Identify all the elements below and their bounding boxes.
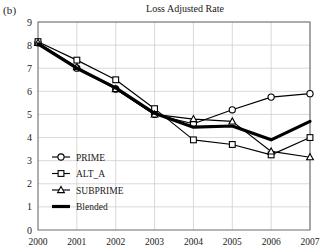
data-series — [35, 39, 314, 160]
data-point — [307, 135, 313, 141]
data-point — [229, 142, 235, 148]
y-tick-label: 6 — [27, 86, 32, 97]
y-tick-label: 4 — [27, 132, 32, 143]
data-point — [268, 94, 274, 100]
legend-label: Blended — [76, 202, 108, 212]
legend-item-alt-a[interactable]: ALT_A — [52, 169, 105, 179]
data-point — [191, 137, 197, 143]
chart-legend: PRIMEALT_ASUBPRIMEBlended — [52, 153, 124, 213]
legend-label: ALT_A — [76, 169, 105, 179]
legend-marker-square — [58, 171, 64, 177]
figure-panel: (b) Loss Adjusted Rate 0123456789 200020… — [0, 0, 324, 250]
x-axis-ticks: 20002001200220032004200520062007 — [29, 237, 320, 247]
legend-item-blended[interactable]: Blended — [52, 202, 108, 212]
axes — [38, 22, 310, 230]
data-point — [307, 91, 313, 97]
data-point — [268, 148, 275, 154]
y-tick-label: 2 — [27, 178, 32, 189]
y-tick-label: 9 — [27, 17, 32, 28]
data-point — [113, 77, 119, 83]
legend-label: PRIME — [76, 153, 105, 163]
legend-item-subprime[interactable]: SUBPRIME — [52, 186, 124, 196]
y-axis-ticks: 0123456789 — [27, 17, 32, 236]
x-tick-label: 2002 — [106, 237, 125, 247]
x-tick-label: 2003 — [145, 237, 164, 247]
x-tick-label: 2007 — [301, 237, 320, 247]
chart-canvas: 0123456789 20002001200220032004200520062… — [0, 0, 324, 250]
gridlines — [38, 22, 310, 230]
x-tick-label: 2000 — [29, 237, 48, 247]
y-tick-label: 7 — [27, 63, 32, 74]
y-tick-label: 3 — [27, 155, 32, 166]
y-tick-label: 0 — [27, 225, 32, 236]
y-tick-label: 1 — [27, 201, 32, 212]
x-tick-label: 2005 — [223, 237, 242, 247]
data-point — [74, 57, 80, 63]
x-tick-label: 2001 — [67, 237, 86, 247]
line-chart: 0123456789 20002001200220032004200520062… — [0, 0, 324, 250]
y-tick-label: 8 — [27, 40, 32, 51]
legend-marker-circle — [58, 154, 64, 160]
y-tick-label: 5 — [27, 109, 32, 120]
x-tick-label: 2004 — [184, 237, 203, 247]
data-point — [229, 107, 235, 113]
x-tick-label: 2006 — [262, 237, 281, 247]
legend-label: SUBPRIME — [76, 186, 124, 196]
